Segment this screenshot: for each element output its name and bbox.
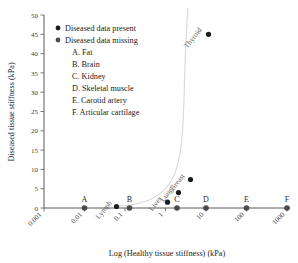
data-point-d-skeletal-muscle[interactable]	[203, 205, 209, 211]
y-axis-ticks	[41, 15, 45, 208]
x-tick-label: 0.1	[113, 210, 125, 222]
x-tick-label: 10	[195, 210, 206, 221]
data-point-a-fat[interactable]	[82, 205, 88, 211]
data-point-b-brain[interactable]	[127, 205, 133, 211]
legend-key-e: E. Carotid artery	[72, 96, 128, 105]
y-tick-label: 30	[31, 89, 39, 97]
legend-key-f: F. Articular cartilage	[72, 108, 140, 117]
y-tick-label: 35	[31, 70, 39, 78]
legend-key-a: A. Fat	[72, 48, 93, 57]
data-point-e-carotid-artery[interactable]	[244, 205, 250, 211]
y-tick-label: 50	[31, 12, 39, 20]
point-letter-f: F	[285, 195, 290, 204]
legend-key-b: B. Brain	[72, 60, 100, 69]
annotation-breast: Breast	[168, 171, 187, 192]
scatter-plot: 0 5 10 15 20 25 30 35 40 45 50 0.001 0.0…	[0, 0, 298, 263]
annotation-thyroid: Thyroid	[182, 25, 204, 50]
point-letter-d: D	[203, 195, 209, 204]
x-axis-ticks	[44, 208, 287, 212]
y-axis-title: Diseased tissue stiffness (kPa)	[7, 62, 16, 161]
data-point-lymph[interactable]	[114, 204, 119, 209]
x-tick-label: 1000	[271, 210, 287, 226]
legend-marker-present	[56, 26, 61, 31]
legend-key-c: C. Kidney	[72, 72, 107, 81]
x-axis-tick-labels: 0.001 0.01 0.1 1 10 100 1000	[27, 210, 287, 227]
point-letter-c: C	[174, 195, 179, 204]
x-tick-label: 100	[233, 210, 246, 223]
y-tick-label: 40	[31, 50, 39, 58]
annotation-lymph: Lymph	[94, 198, 114, 220]
data-point-c-kidney[interactable]	[174, 205, 180, 211]
data-point-f-articular-cartilage[interactable]	[284, 205, 290, 211]
baseline-point-letters: A B C D E F	[82, 195, 290, 204]
y-tick-label: 10	[31, 166, 39, 174]
y-tick-label: 25	[31, 108, 39, 116]
y-tick-label: 15	[31, 147, 39, 155]
y-axis-tick-labels: 0 5 10 15 20 25 30 35 40 45 50	[31, 12, 39, 213]
x-tick-label: 0.01	[70, 210, 85, 225]
point-letter-b: B	[127, 195, 132, 204]
y-tick-label: 20	[31, 127, 39, 135]
x-tick-label: 0.001	[27, 210, 44, 227]
data-point-annotations: Lymph Liver Lung Breast Thyroid	[94, 25, 204, 220]
data-point-thyroid[interactable]	[206, 32, 211, 37]
point-letter-a: A	[82, 195, 88, 204]
data-point-breast[interactable]	[188, 177, 193, 182]
legend-marker-missing	[56, 38, 61, 43]
legend-label-missing: Diseased data missing	[65, 36, 138, 45]
chart-legend: Diseased data present Diseased data miss…	[56, 24, 140, 117]
y-tick-label: 45	[31, 31, 39, 39]
x-tick-label: 1	[157, 210, 165, 218]
point-letter-e: E	[244, 195, 249, 204]
y-tick-label: 5	[35, 185, 39, 193]
series-diseased-data-present	[114, 32, 211, 209]
legend-key-d: D. Skeletal muscle	[72, 84, 134, 93]
legend-label-present: Diseased data present	[65, 24, 137, 33]
chart-figure: 0 5 10 15 20 25 30 35 40 45 50 0.001 0.0…	[0, 0, 298, 263]
x-axis-title: Log (Healthy tissue stiffness) (kPa)	[109, 249, 226, 258]
